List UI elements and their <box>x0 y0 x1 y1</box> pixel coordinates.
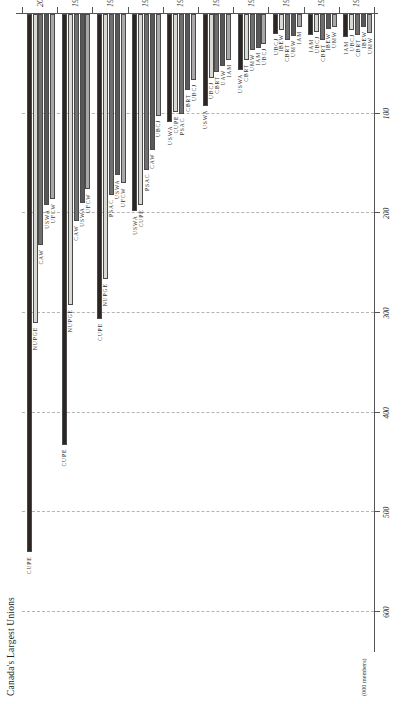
bar-1957-uaw[interactable] <box>220 14 225 66</box>
bar-1977-cupe[interactable] <box>138 14 143 205</box>
bar-1967-cupe[interactable] <box>173 14 178 112</box>
bar-label-1947-ubcj: UBCJ <box>261 48 267 90</box>
bar-1937-ibew[interactable] <box>279 14 284 30</box>
bar-1997-ufcw[interactable] <box>85 14 90 189</box>
value-axis-tick-label: 600 <box>382 607 391 618</box>
page-rotation-wrapper: Canada's Largest Unions (000 members) CU… <box>0 0 412 704</box>
category-label-1917: 1917 <box>352 0 361 7</box>
bar-1917-ubcj[interactable] <box>349 14 354 30</box>
category-label-2007: 2007 <box>35 0 44 7</box>
category-label-1937: 1937 <box>282 0 291 7</box>
bar-1947-umw[interactable] <box>250 14 255 50</box>
category-label-1957: 1957 <box>211 0 220 7</box>
bar-1997-nupge[interactable] <box>68 14 73 305</box>
bar-1957-iam[interactable] <box>226 14 231 60</box>
bar-2007-cupe[interactable] <box>27 14 32 552</box>
bar-1917-umw[interactable] <box>367 14 372 33</box>
bar-1987-psac[interactable] <box>109 14 114 195</box>
bar-1987-ufcw[interactable] <box>121 14 126 183</box>
bar-1927-umw[interactable] <box>332 14 337 27</box>
bar-2007-uswa[interactable] <box>44 14 49 205</box>
category-axis-tick <box>92 7 93 14</box>
value-axis-tick-label: 300 <box>382 307 391 318</box>
bar-1957-ubcj[interactable] <box>209 14 214 78</box>
category-axis-line <box>16 13 378 14</box>
bar-label-1997-cupe: CUPE <box>61 449 67 491</box>
bar-1997-cupe[interactable] <box>62 14 67 445</box>
bar-1947-ubcj[interactable] <box>261 14 266 44</box>
bar-1937-iam[interactable] <box>297 14 302 27</box>
bar-1927-iam[interactable] <box>308 14 313 35</box>
bar-1987-uswa[interactable] <box>115 14 120 175</box>
category-label-1947: 1947 <box>246 0 255 7</box>
bar-label-1997-nupge: NUPGE <box>67 309 73 351</box>
bar-1917-ibew[interactable] <box>361 14 366 27</box>
bar-label-2007-ufcw: UFCW <box>50 203 56 245</box>
category-label-1987: 1987 <box>106 0 115 7</box>
category-axis-tick <box>374 7 375 14</box>
bar-1977-caw[interactable] <box>150 14 155 150</box>
bar-2007-ufcw[interactable] <box>50 14 55 199</box>
category-axis-tick <box>22 7 23 14</box>
value-axis-line <box>374 14 375 652</box>
bar-label-1997-ufcw: UFCW <box>85 193 91 235</box>
chart-canvas: Canada's Largest Unions (000 members) CU… <box>0 0 412 704</box>
value-axis-tick <box>374 412 380 413</box>
bar-1927-ibew[interactable] <box>326 14 331 29</box>
bar-1977-uswa[interactable] <box>132 14 137 211</box>
bar-label-2007-nupge: NUPGE <box>32 327 38 369</box>
value-axis-tick-label: 200 <box>382 208 391 219</box>
bar-1927-cbrt[interactable] <box>320 14 325 40</box>
bar-1997-caw[interactable] <box>74 14 79 221</box>
bar-1997-uswa[interactable] <box>80 14 85 203</box>
value-axis-tick <box>374 312 380 313</box>
bar-1937-umw[interactable] <box>291 14 296 36</box>
bar-1977-ubcj[interactable] <box>156 14 161 116</box>
category-axis-tick <box>268 7 269 14</box>
category-axis-tick <box>198 7 199 14</box>
bar-label-2007-cupe: CUPE <box>26 556 32 598</box>
bar-1957-cbrt[interactable] <box>214 14 219 72</box>
bar-1917-iam[interactable] <box>343 14 348 37</box>
bar-label-1987-nupge: NUPGE <box>102 283 108 325</box>
bar-1927-ubcj[interactable] <box>314 14 319 32</box>
category-axis-tick <box>339 7 340 14</box>
value-axis-tick <box>374 611 380 612</box>
category-label-1997: 1997 <box>70 0 79 7</box>
bar-label-1937-iam: IAM <box>296 31 302 73</box>
category-axis-tick <box>304 7 305 14</box>
value-axis-tick <box>374 113 380 114</box>
plot-area: CUPENUPGECAWUSWAUFCWCUPENUPGECAWUSWAUFCW… <box>22 14 374 652</box>
chart-title: Canada's Largest Unions <box>6 597 16 696</box>
value-axis-tick <box>374 212 380 213</box>
bar-1967-cbrt[interactable] <box>185 14 190 90</box>
bar-1917-cbrt[interactable] <box>355 14 360 35</box>
bar-label-1967-ubcj: UBCJ <box>191 84 197 126</box>
value-axis-unit-label: (000 members) <box>360 658 367 696</box>
value-axis-tick <box>374 511 380 512</box>
bar-1967-uswa[interactable] <box>167 14 172 122</box>
category-axis-tick <box>163 7 164 14</box>
bar-1977-psac[interactable] <box>144 14 149 170</box>
bar-label-2007-caw: CAW <box>38 249 44 291</box>
bar-1947-iam[interactable] <box>256 14 261 48</box>
bar-1967-psac[interactable] <box>179 14 184 114</box>
category-label-1977: 1977 <box>141 0 150 7</box>
bar-1937-ubcj[interactable] <box>273 14 278 34</box>
category-label-1927: 1927 <box>317 0 326 7</box>
bar-label-1927-umw: UMW <box>331 31 337 73</box>
category-axis-tick <box>233 7 234 14</box>
bar-1967-ubcj[interactable] <box>191 14 196 80</box>
bar-1937-cbrt[interactable] <box>285 14 290 40</box>
bar-1957-uswa[interactable] <box>203 14 208 106</box>
bar-2007-nupge[interactable] <box>33 14 38 323</box>
bar-1947-cbrt[interactable] <box>244 14 249 60</box>
bar-1947-uswa[interactable] <box>238 14 243 70</box>
value-axis-tick-label: 100 <box>382 108 391 119</box>
bar-2007-caw[interactable] <box>38 14 43 245</box>
bar-label-1977-ubcj: UBCJ <box>155 120 161 162</box>
bar-label-1957-iam: IAM <box>226 64 232 106</box>
bar-1987-nupge[interactable] <box>103 14 108 279</box>
category-axis-tick <box>128 7 129 14</box>
bar-1987-cupe[interactable] <box>97 14 102 319</box>
